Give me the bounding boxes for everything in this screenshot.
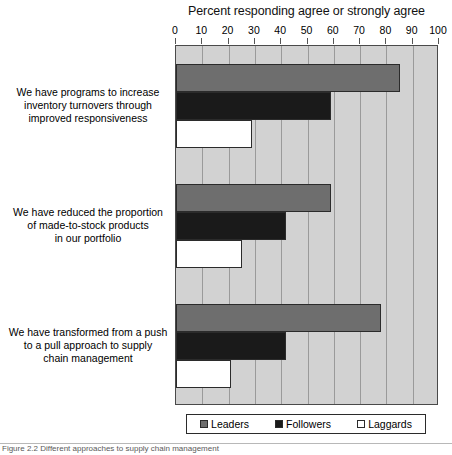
x-tick-label-20: 20 xyxy=(222,24,234,36)
chart-legend: Leaders Followers Laggards xyxy=(186,414,426,434)
x-tick-mark-90 xyxy=(412,38,413,44)
x-tick-label-100: 100 xyxy=(429,24,447,36)
x-tick-label-80: 80 xyxy=(380,24,392,36)
x-tick-mark-60 xyxy=(333,38,334,44)
plot-area xyxy=(175,45,438,405)
category-label-1: We have programs to increaseinventory tu… xyxy=(4,86,172,125)
x-tick-label-90: 90 xyxy=(406,24,418,36)
bar-followers-group-2 xyxy=(176,212,286,240)
bar-followers-group-1 xyxy=(176,92,331,120)
category-label-2-line-1: We have reduced the proportion xyxy=(4,206,172,219)
bar-laggards-group-1 xyxy=(176,120,252,148)
legend-label-laggards: Laggards xyxy=(368,418,412,430)
legend-swatch-followers-icon xyxy=(275,420,283,428)
x-tick-mark-20 xyxy=(228,38,229,44)
x-tick-label-0: 0 xyxy=(172,24,178,36)
x-axis-tick-marks xyxy=(175,38,439,45)
category-label-2: We have reduced the proportionof made-to… xyxy=(4,206,172,245)
x-tick-label-70: 70 xyxy=(353,24,365,36)
x-tick-label-40: 40 xyxy=(274,24,286,36)
legend-swatch-laggards-icon xyxy=(357,420,365,428)
x-tick-mark-100 xyxy=(438,38,439,44)
x-tick-label-10: 10 xyxy=(195,24,207,36)
chart-title: Percent responding agree or strongly agr… xyxy=(175,4,438,18)
x-tick-label-30: 30 xyxy=(248,24,260,36)
legend-label-followers: Followers xyxy=(286,418,331,430)
bar-laggards-group-2 xyxy=(176,240,242,268)
bar-laggards-group-3 xyxy=(176,360,231,388)
bars-layer xyxy=(176,46,437,404)
x-tick-mark-30 xyxy=(254,38,255,44)
x-tick-mark-50 xyxy=(307,38,308,44)
category-label-1-line-3: improved responsiveness xyxy=(4,112,172,125)
legend-item-leaders[interactable]: Leaders xyxy=(200,418,249,430)
bar-followers-group-3 xyxy=(176,332,286,360)
bar-leaders-group-1 xyxy=(176,64,400,92)
legend-item-followers[interactable]: Followers xyxy=(275,418,331,430)
category-label-2-line-3: in our portfolio xyxy=(4,232,172,245)
x-tick-mark-70 xyxy=(359,38,360,44)
x-tick-mark-10 xyxy=(201,38,202,44)
category-label-3: We have transformed from a pushto a pull… xyxy=(4,326,172,365)
bar-leaders-group-2 xyxy=(176,184,331,212)
x-tick-label-50: 50 xyxy=(301,24,313,36)
x-tick-mark-40 xyxy=(280,38,281,44)
legend-swatch-leaders-icon xyxy=(200,420,208,428)
category-label-3-line-3: chain management xyxy=(4,352,172,365)
x-tick-label-60: 60 xyxy=(327,24,339,36)
category-label-1-line-2: inventory turnovers through xyxy=(4,99,172,112)
legend-label-leaders: Leaders xyxy=(211,418,249,430)
x-tick-mark-0 xyxy=(175,38,176,44)
chart-figure: Percent responding agree or strongly agr… xyxy=(0,0,452,455)
x-tick-mark-80 xyxy=(385,38,386,44)
category-label-1-line-1: We have programs to increase xyxy=(4,86,172,99)
category-label-3-line-2: to a pull approach to supply xyxy=(4,339,172,352)
bar-leaders-group-3 xyxy=(176,304,381,332)
category-label-2-line-2: of made-to-stock products xyxy=(4,219,172,232)
x-axis-tick-labels: 0102030405060708090100 xyxy=(175,24,438,38)
category-label-3-line-1: We have transformed from a push xyxy=(4,326,172,339)
legend-item-laggards[interactable]: Laggards xyxy=(357,418,412,430)
figure-caption: Figure 2.2 Different approaches to suppl… xyxy=(2,444,450,454)
